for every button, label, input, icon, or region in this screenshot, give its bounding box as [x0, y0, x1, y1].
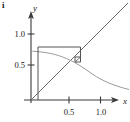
figure-panel: i 1.0 0.5 0.5 1.0 y x	[0, 0, 130, 122]
cobweb-plot: 1.0 0.5 0.5 1.0 y x	[0, 0, 130, 122]
identity-line	[31, 3, 128, 100]
cobweb-segment-inner-diagonal	[75, 57, 81, 62]
cobweb-path	[38, 47, 81, 100]
y-tick-label-1: 1.0	[14, 29, 25, 39]
y-axis-label: y	[32, 3, 37, 13]
x-tick-label-1: 1.0	[96, 107, 107, 117]
y-tick-label-0point5: 0.5	[14, 60, 25, 70]
x-axis-label: x	[122, 96, 127, 106]
x-tick-label-0point5: 0.5	[64, 107, 75, 117]
